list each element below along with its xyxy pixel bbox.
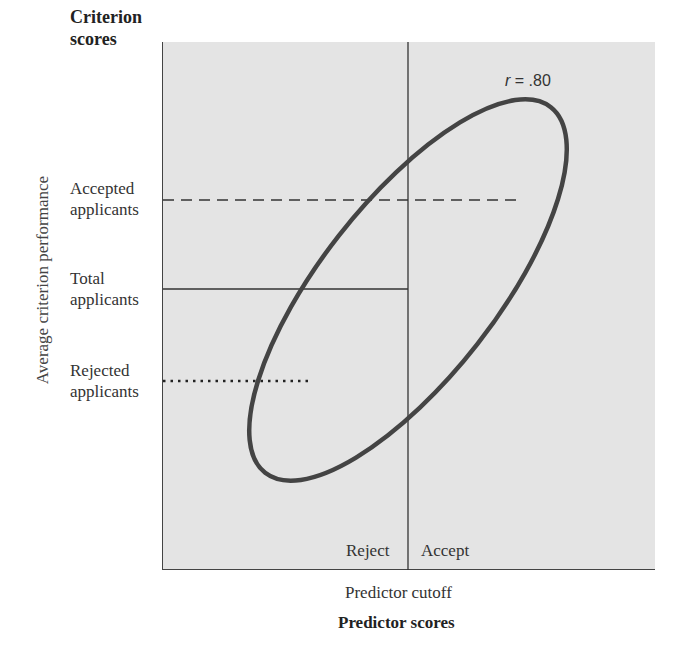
predictor-cutoff-label: Predictor cutoff xyxy=(345,582,452,603)
x-axis-title: Predictor scores xyxy=(338,612,455,633)
correlation-label: r = .80 xyxy=(505,72,551,90)
accept-region-label: Accept xyxy=(421,540,469,561)
correlation-value: = .80 xyxy=(510,72,550,89)
diagram-graphics xyxy=(0,0,680,661)
reject-region-label: Reject xyxy=(346,540,389,561)
